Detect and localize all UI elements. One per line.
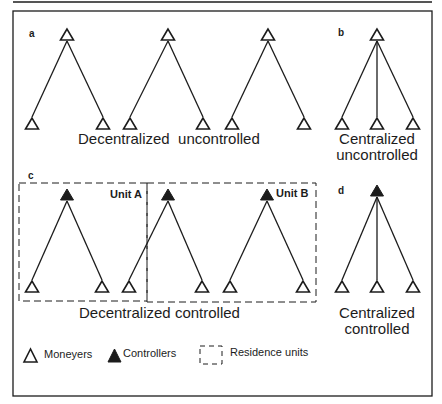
link-line <box>268 41 304 117</box>
moneyer-node-icon <box>224 281 237 292</box>
moneyer-node-icon <box>26 118 39 129</box>
moneyer-node-icon <box>96 281 109 292</box>
caption-centralized-controlled: Centralized controlled <box>332 305 422 337</box>
legend-label-moneyers: Moneyers <box>44 348 92 360</box>
moneyer-node-icon <box>124 118 137 129</box>
link-line <box>67 41 103 117</box>
moneyer-node-icon <box>97 118 110 129</box>
link-line <box>67 201 102 280</box>
moneyer-node-icon <box>336 281 349 292</box>
link-line <box>267 201 303 280</box>
link-line <box>342 41 377 117</box>
moneyer-node-icon <box>336 118 349 129</box>
caption-centralized-uncontrolled: Centralized uncontrolled <box>332 131 422 163</box>
panel-letter-d: d <box>338 185 344 196</box>
moneyer-node-icon <box>298 118 311 129</box>
moneyer-node-icon <box>26 281 39 292</box>
link-line <box>230 201 267 280</box>
link-line <box>377 41 413 117</box>
moneyer-node-icon <box>61 29 74 40</box>
moneyer-node-icon <box>123 281 136 292</box>
link-line <box>129 201 168 280</box>
moneyer-node-icon <box>226 118 239 129</box>
moneyer-node-icon <box>371 281 384 292</box>
link-line <box>168 201 202 280</box>
unit-a-label: Unit A <box>110 188 142 200</box>
controller-node-icon <box>162 189 175 200</box>
panel-d-centralized-controlled <box>336 185 420 292</box>
controller-legend-icon <box>108 349 121 362</box>
organization-diagram <box>0 0 442 404</box>
moneyer-node-icon <box>371 118 384 129</box>
moneyer-node-icon <box>407 281 420 292</box>
caption-line-2: uncontrolled <box>332 147 422 163</box>
moneyer-legend-icon <box>24 349 37 362</box>
caption-decentralized-controlled: Decentralized controlled <box>79 305 240 321</box>
link-line <box>32 41 67 117</box>
residence-unit-legend-icon <box>200 346 222 364</box>
panel-b-centralized-uncontrolled <box>336 29 420 129</box>
link-line <box>377 197 413 280</box>
panel-letter-a: a <box>29 28 35 39</box>
moneyer-node-icon <box>197 118 210 129</box>
panel-letter-b: b <box>338 27 344 38</box>
moneyer-node-icon <box>297 281 310 292</box>
panel-letter-c: c <box>28 170 34 181</box>
caption-line-1: Centralized <box>332 305 422 321</box>
caption-line-1: Centralized <box>332 131 422 147</box>
controller-node-icon <box>261 189 274 200</box>
link-line <box>168 41 203 117</box>
link-line <box>130 41 168 117</box>
caption-line-2: controlled <box>332 321 422 337</box>
figure-frame <box>13 11 432 396</box>
moneyer-node-icon <box>262 29 275 40</box>
controller-node-icon <box>371 185 384 196</box>
panel-c-decentralized-controlled <box>19 183 316 302</box>
panel-a-decentralized-uncontrolled <box>26 29 311 129</box>
controller-node-icon <box>61 189 74 200</box>
moneyer-node-icon <box>162 29 175 40</box>
moneyer-node-icon <box>196 281 209 292</box>
unit-b-label: Unit B <box>276 187 308 199</box>
link-line <box>232 41 268 117</box>
link-line <box>342 197 377 280</box>
moneyer-node-icon <box>407 118 420 129</box>
moneyer-node-icon <box>371 29 384 40</box>
caption-decentralized-uncontrolled: Decentralized uncontrolled <box>78 131 260 147</box>
link-line <box>32 201 67 280</box>
legend-label-residence-units: Residence units <box>230 346 308 358</box>
legend-label-controllers: Controllers <box>123 347 176 359</box>
